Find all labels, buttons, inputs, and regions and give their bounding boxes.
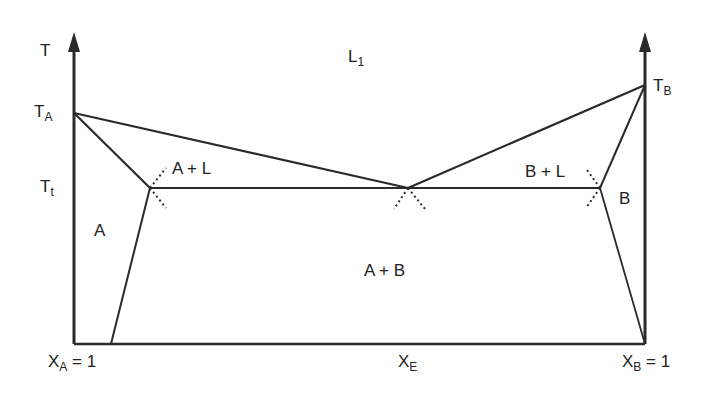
label-tb: TB (653, 77, 671, 97)
right-axis-arrow-icon (639, 32, 651, 52)
left-axis-arrow-icon (68, 32, 80, 52)
label-xa: XA = 1 (48, 353, 96, 373)
region-a-solid: A (94, 222, 105, 239)
label-tt: Tt (40, 178, 54, 198)
temperature-axis-label: T (40, 42, 50, 59)
region-a-plus-b: A + B (364, 262, 405, 279)
phase-diagram: T TA Tt TB L1 A + L B + L A B A + B XA =… (0, 0, 709, 393)
region-b-plus-l: B + L (525, 163, 565, 180)
solvus-a (111, 188, 150, 344)
label-ta: TA (34, 103, 52, 123)
label-xe: XE (398, 353, 417, 373)
solvus-b (600, 188, 645, 344)
label-xb: XB = 1 (622, 353, 670, 373)
liquidus-a (74, 113, 408, 188)
solidus-a-upper (74, 113, 150, 188)
region-liquid: L1 (348, 48, 364, 68)
region-b-solid: B (619, 190, 630, 207)
region-a-plus-l: A + L (172, 160, 211, 177)
